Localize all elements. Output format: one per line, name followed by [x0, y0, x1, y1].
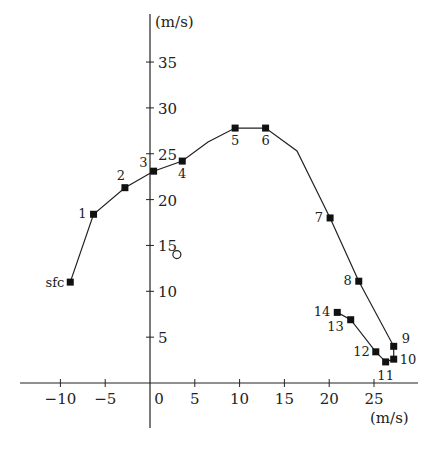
data-point-marker	[262, 125, 269, 132]
hodograph-curve	[70, 128, 393, 362]
data-point-marker	[334, 309, 341, 316]
x-tick-label: −10	[45, 390, 77, 408]
wind-curve-line	[70, 128, 393, 362]
point-label: 7	[315, 210, 323, 225]
x-tick-label: 20	[320, 390, 339, 408]
axis-ticks: −10−505101520255101520253035	[45, 54, 384, 408]
x-tick-label: 0	[154, 390, 164, 408]
point-label: sfc	[45, 275, 64, 290]
point-label: 2	[117, 168, 125, 183]
point-labels: sfc1234567891011121314	[45, 133, 416, 383]
x-tick-label: −5	[94, 390, 116, 408]
data-point-marker	[179, 158, 186, 165]
data-point-marker	[327, 214, 334, 221]
point-label: 12	[353, 344, 370, 359]
data-point-marker	[67, 279, 74, 286]
data-point-marker	[347, 316, 354, 323]
data-point-marker	[390, 343, 397, 350]
hodograph-chart: −10−505101520255101520253035 sfc12345678…	[0, 0, 437, 458]
y-tick-label: 10	[158, 283, 177, 301]
data-point-marker	[232, 125, 239, 132]
y-tick-label: 35	[158, 54, 177, 72]
point-label: 4	[178, 166, 186, 181]
x-tick-label: 25	[364, 390, 383, 408]
point-label: 9	[402, 331, 410, 346]
data-point-marker	[372, 348, 379, 355]
point-label: 10	[400, 352, 417, 367]
x-tick-label: 10	[230, 390, 249, 408]
y-axis-unit-label: (m/s)	[155, 13, 194, 31]
x-axis-unit-label: (m/s)	[370, 409, 409, 427]
point-label: 11	[377, 368, 394, 383]
data-point-marker	[355, 278, 362, 285]
data-point-marker	[90, 211, 97, 218]
y-tick-label: 20	[158, 192, 177, 210]
open-circle-marker	[173, 251, 181, 259]
data-markers	[67, 125, 397, 366]
point-label: 14	[314, 304, 331, 319]
point-label: 1	[78, 206, 86, 221]
point-label: 3	[139, 155, 147, 170]
y-tick-label: 25	[158, 146, 177, 164]
data-point-marker	[121, 184, 128, 191]
data-point-marker	[390, 356, 397, 363]
y-tick-label: 30	[158, 100, 177, 118]
y-tick-label: 5	[158, 329, 168, 347]
x-tick-label: 5	[190, 390, 200, 408]
point-label: 5	[231, 133, 239, 148]
point-label: 6	[261, 133, 269, 148]
data-point-marker	[382, 358, 389, 365]
point-label: 13	[327, 319, 344, 334]
data-point-marker	[150, 168, 157, 175]
x-tick-label: 15	[275, 390, 294, 408]
point-label: 8	[343, 273, 351, 288]
